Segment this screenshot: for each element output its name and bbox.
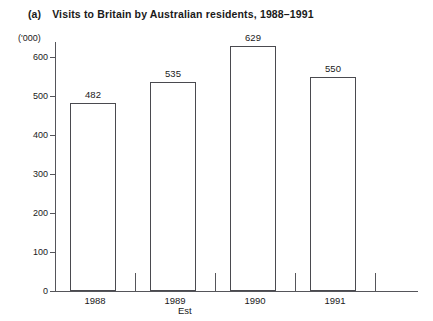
y-axis-tick-label: 400 (6, 131, 48, 140)
bar-value-label: 550 (298, 64, 368, 74)
y-axis-tick (50, 252, 56, 253)
y-axis-line (55, 42, 56, 292)
y-axis-tick (50, 291, 56, 292)
x-axis-line (55, 291, 418, 292)
bar (70, 103, 116, 291)
x-axis-label: 1991 (295, 296, 375, 306)
bar (230, 46, 276, 291)
x-axis-tick (55, 273, 56, 291)
y-axis-tick (50, 96, 56, 97)
y-axis-tick-label: 100 (6, 248, 48, 257)
y-axis-tick (50, 213, 56, 214)
bar-value-label: 535 (138, 69, 208, 79)
y-axis-tick (50, 135, 56, 136)
bar-value-label: 629 (218, 33, 288, 43)
bar (150, 82, 196, 291)
y-axis-tick (50, 57, 56, 58)
y-axis-unit-label: ('000) (18, 33, 41, 43)
x-axis-tick (375, 273, 376, 291)
x-axis-label: 1989 (135, 296, 215, 306)
x-axis-footnote: Est (178, 306, 192, 316)
x-axis-tick (135, 273, 136, 291)
bar (310, 77, 356, 292)
bar-chart: ('000) 0100200300400500600 482535629550 … (0, 0, 433, 321)
y-axis-tick-label: 600 (6, 53, 48, 62)
x-axis-label: 1990 (215, 296, 295, 306)
y-axis-tick-label: 300 (6, 170, 48, 179)
bar-value-label: 482 (58, 90, 128, 100)
y-axis-tick-label: 500 (6, 92, 48, 101)
y-axis-tick-label: 0 (6, 287, 48, 296)
x-axis-tick (215, 273, 216, 291)
x-axis-label: 1988 (55, 296, 135, 306)
y-axis-tick-label: 200 (6, 209, 48, 218)
x-axis-tick (295, 273, 296, 291)
y-axis-tick (50, 174, 56, 175)
